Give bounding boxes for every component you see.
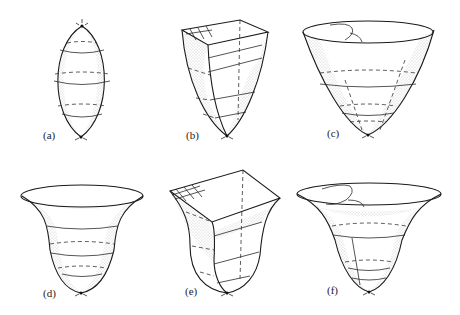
panel-c-label: (c) (327, 127, 340, 140)
panel-c: (c) (303, 21, 434, 140)
panel-f: (f) (297, 183, 441, 297)
panel-b-label: (b) (186, 129, 199, 142)
panel-a: (a) (43, 19, 110, 142)
panel-a-label: (a) (43, 129, 56, 142)
panel-e: (e) (170, 170, 280, 298)
panel-b: (b) (182, 20, 268, 142)
panel-d: (d) (21, 185, 143, 300)
panel-f-label: (f) (327, 284, 338, 297)
panel-d-label: (d) (43, 287, 56, 300)
six-panel-surface-diagram: (a) (b) (c) (0, 0, 460, 315)
panel-e-label: (e) (185, 285, 198, 298)
